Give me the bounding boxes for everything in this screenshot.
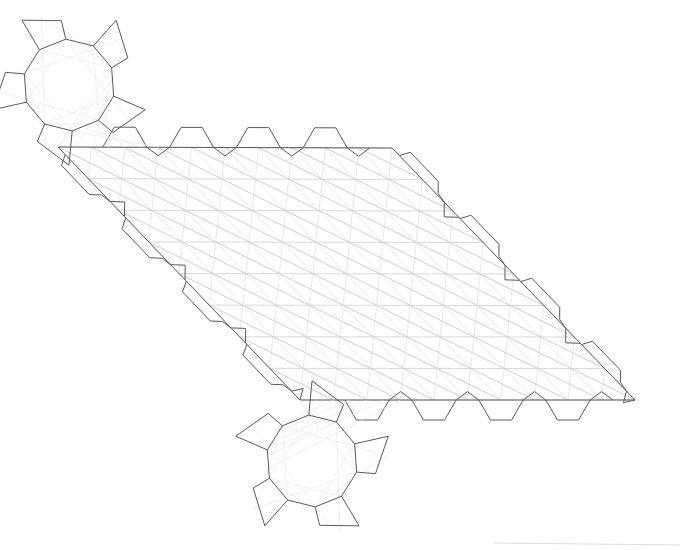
upper-hub-outline: [0, 20, 145, 165]
drawing-canvas: [0, 0, 680, 550]
lower-gear-hub: [236, 381, 401, 530]
bottom-edge-artifact: [494, 543, 680, 545]
lower-hub-web-lines: [249, 389, 401, 530]
upper-hub-web-lines: [0, 16, 158, 157]
upper-gear-hub: [0, 16, 158, 165]
technical-wireframe-drawing: [0, 0, 680, 550]
lower-hub-outline: [236, 381, 388, 526]
main-parallelogram-panel: [58, 147, 635, 400]
